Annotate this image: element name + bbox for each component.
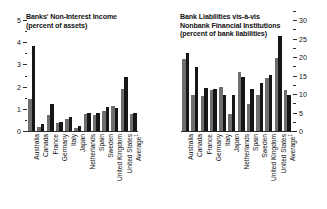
bar-group — [56, 20, 63, 131]
bar-group — [65, 20, 72, 131]
bar-group — [28, 20, 35, 131]
y-axis-tick-major — [293, 76, 297, 77]
bar-dark — [241, 77, 245, 131]
x-axis-category-label: Netherlands — [90, 134, 97, 170]
bar-group — [284, 20, 291, 131]
bar-group — [201, 20, 208, 131]
bar-group — [247, 20, 254, 131]
dual-bar-chart-figure: Banks' Non-Interest Income (percent of a… — [0, 0, 327, 209]
x-axis-category-label: Average1 — [290, 134, 297, 161]
x-axis-category-label: Average1 — [136, 134, 143, 161]
y-axis-tick-minor — [293, 66, 296, 67]
y-axis-tick-major — [293, 20, 297, 21]
bar-group — [210, 20, 217, 131]
y-axis-tick-major — [293, 57, 297, 58]
y-axis-tick-label: 3 — [17, 61, 21, 68]
y-axis-tick-label: 30 — [299, 17, 307, 24]
bar-dark — [87, 113, 91, 131]
x-axis-category-label: Spain — [253, 134, 260, 151]
x-axis-category-label: United States — [127, 134, 134, 174]
y-axis-tick-major — [293, 39, 297, 40]
bar-group — [265, 20, 272, 131]
bar-group — [182, 20, 189, 131]
bar-dark — [69, 117, 73, 131]
y-axis-tick-label: 0 — [299, 128, 303, 135]
plot-area-right — [181, 20, 292, 132]
bar-group — [130, 20, 137, 131]
y-axis-tick-label: 4 — [17, 39, 21, 46]
x-axis-category-label: United Kingdom — [271, 134, 278, 181]
bar-dark — [269, 75, 273, 131]
x-axis-category-label: Italy — [225, 134, 232, 146]
x-axis-category-label: Italy — [71, 134, 78, 146]
bar-dark — [223, 95, 227, 131]
bar-dark — [260, 83, 264, 131]
x-axis-category-label: Canada — [43, 134, 50, 157]
x-axis-category-label: Spain — [99, 134, 106, 151]
bar-group — [238, 20, 245, 131]
x-axis-category-label: Australia — [188, 134, 195, 160]
x-axis-category-label: Germany — [62, 134, 69, 161]
y-axis-tick-minor — [293, 29, 296, 30]
y-axis-tick-minor — [293, 103, 296, 104]
bar-dark — [96, 113, 100, 131]
y-axis-tick-label: 2 — [17, 83, 21, 90]
bar-dark — [59, 122, 63, 131]
x-axis-category-label: Sweden — [262, 134, 269, 158]
bar-dark — [186, 53, 190, 131]
chart-panel-left: Banks' Non-Interest Income (percent of a… — [0, 0, 163, 209]
y-axis-right: 051015202530 — [293, 20, 294, 132]
x-axis-category-label: Netherlands — [244, 134, 251, 170]
x-axis-category-label: France — [207, 134, 214, 155]
bar-dark — [204, 88, 208, 131]
bar-dark — [41, 124, 45, 131]
y-axis-tick-minor — [293, 48, 296, 49]
bar-dark — [133, 113, 137, 131]
bar-dark — [115, 108, 119, 131]
y-axis-tick-major — [293, 113, 297, 114]
bar-dark — [213, 89, 217, 131]
chart-panel-right: Bank Liabilities vis-à-vis Nonbank Finan… — [163, 0, 327, 209]
bar-group — [74, 20, 81, 131]
bar-dark — [250, 89, 254, 131]
bar-dark — [50, 104, 54, 131]
x-axis-category-label: Canada — [197, 134, 204, 157]
y-axis-tick-label: 1 — [17, 105, 21, 112]
bar-dark — [78, 126, 82, 131]
bar-group — [102, 20, 109, 131]
bar-dark — [278, 36, 282, 131]
x-axis-category-label: United States — [281, 134, 288, 174]
y-axis-tick-label: 5 — [17, 17, 21, 24]
x-axis-category-label: Japan — [80, 134, 87, 152]
bar-group — [228, 20, 235, 131]
x-axis-baseline-left — [27, 131, 138, 132]
y-axis-tick-minor — [293, 85, 296, 86]
bar-group — [219, 20, 226, 131]
y-axis-tick-label: 25 — [299, 35, 307, 42]
y-axis-tick-major — [293, 94, 297, 95]
x-axis-category-label: Japan — [234, 134, 241, 152]
bar-dark — [195, 67, 199, 131]
bar-group — [256, 20, 263, 131]
bar-group — [37, 20, 44, 131]
y-axis-tick-label: 5 — [299, 109, 303, 116]
y-axis-tick-minor — [293, 122, 296, 123]
x-axis-category-label: Sweden — [108, 134, 115, 158]
x-axis-category-label: France — [53, 134, 60, 155]
y-axis-tick-label: 0 — [17, 128, 21, 135]
bar-dark — [106, 107, 110, 131]
bar-group — [84, 20, 91, 131]
y-axis-tick-label: 20 — [299, 54, 307, 61]
x-axis-labels-right: AustraliaCanadaFranceGermanyItalyJapanNe… — [181, 134, 292, 206]
bar-dark — [287, 95, 291, 131]
bar-dark — [32, 46, 36, 131]
bar-group — [111, 20, 118, 131]
y-axis-tick-label: 10 — [299, 91, 307, 98]
y-axis-tick-minor — [293, 11, 296, 12]
x-axis-category-label: Germany — [216, 134, 223, 161]
bar-group — [47, 20, 54, 131]
bar-group — [191, 20, 198, 131]
x-axis-baseline-right — [181, 131, 293, 132]
x-axis-category-label: United Kingdom — [117, 134, 124, 181]
x-axis-labels-left: AustraliaCanadaFranceGermanyItalyJapanNe… — [27, 134, 138, 206]
